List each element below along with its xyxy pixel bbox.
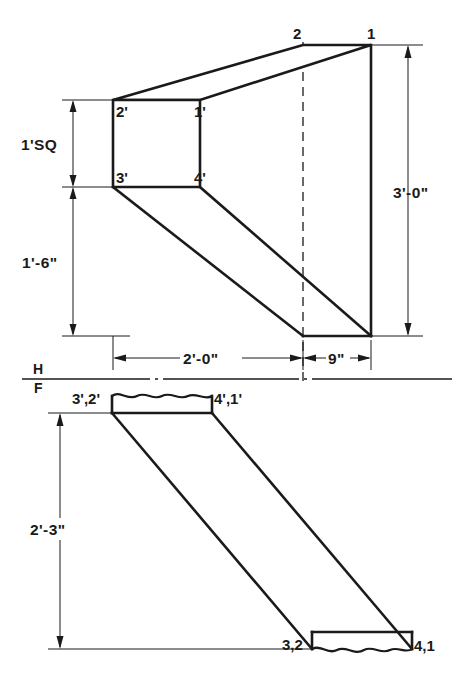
vertex-label-1: 1 bbox=[367, 25, 375, 42]
dimension-label-end-width: 9" bbox=[328, 350, 345, 367]
top-view-label-lower-left: 3,2 bbox=[282, 636, 303, 653]
arrowhead-depth-top bbox=[57, 413, 64, 426]
dimension-label-total-height: 3'-0" bbox=[393, 184, 428, 201]
vertex-label-3-prime: 3' bbox=[116, 169, 128, 186]
break-line-upper bbox=[112, 394, 212, 397]
top-view-label-upper-left: 3',2' bbox=[72, 390, 100, 407]
arrowhead-end-right bbox=[358, 355, 371, 362]
arrowhead-run-right bbox=[290, 355, 303, 362]
lower-diagonal-edge-right bbox=[200, 187, 371, 336]
arrowhead-depth-bottom bbox=[57, 636, 64, 649]
dimension-label-horizontal-run: 2'-0" bbox=[183, 350, 218, 367]
reference-label-f: F bbox=[34, 380, 43, 396]
lower-diagonal-edge-left bbox=[113, 187, 303, 336]
dimension-label-square: 1'SQ bbox=[21, 136, 57, 153]
break-line-lower bbox=[312, 648, 412, 652]
top-view-slant-edge-right bbox=[212, 413, 412, 649]
engineering-drawing-svg: 1'SQ 1'-6" 3'-0" 2 1 2' 1' bbox=[0, 0, 468, 686]
top-view-group: 2'-3" 3',2' 4',1' 3,2 4,1 bbox=[28, 390, 435, 654]
arrowhead-total-top bbox=[405, 45, 412, 58]
technical-drawing-canvas: 1'SQ 1'-6" 3'-0" 2 1 2' 1' bbox=[0, 0, 468, 686]
dimension-label-lower-height: 1'-6" bbox=[22, 254, 57, 271]
reference-label-h: H bbox=[33, 361, 43, 377]
dimension-label-depth: 2'-3" bbox=[30, 521, 65, 538]
top-view-label-upper-right: 4',1' bbox=[214, 390, 242, 407]
arrowhead-square-top bbox=[70, 100, 77, 112]
arrowhead-total-bottom bbox=[405, 323, 412, 336]
vertex-label-2: 2 bbox=[293, 25, 301, 42]
front-view-group: 1'SQ 1'-6" 3'-0" 2 1 2' 1' bbox=[21, 25, 428, 384]
vertex-label-2-prime: 2' bbox=[116, 103, 128, 120]
arrowhead-end-left bbox=[303, 355, 316, 362]
arrowhead-lower-bottom bbox=[70, 324, 77, 336]
top-slanted-face bbox=[113, 45, 371, 100]
arrowhead-lower-top bbox=[70, 187, 77, 199]
arrowhead-square-bottom bbox=[70, 175, 77, 187]
arrowhead-run-left bbox=[113, 355, 126, 362]
top-view-slant-edge-left bbox=[112, 413, 312, 649]
vertex-label-4-prime: 4' bbox=[194, 169, 206, 186]
vertex-label-1-prime: 1' bbox=[194, 103, 206, 120]
top-view-label-lower-right: 4,1 bbox=[414, 637, 435, 654]
